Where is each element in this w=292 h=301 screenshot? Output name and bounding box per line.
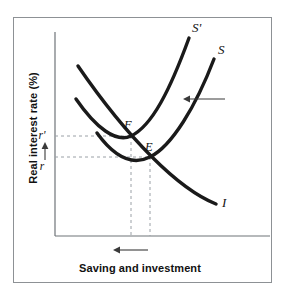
tick-label-r: r bbox=[40, 160, 45, 172]
curve-label-s: S bbox=[218, 42, 225, 57]
curve-label-s-prime: S' bbox=[192, 20, 202, 35]
rate-increase-arrow bbox=[42, 142, 49, 160]
quantity-decrease-arrow bbox=[113, 247, 148, 254]
point-label-f: F bbox=[123, 118, 132, 132]
curve-label-i: I bbox=[221, 195, 227, 210]
figure-container: Real interest rate (%) Saving and invest… bbox=[0, 0, 292, 301]
tick-label-r-prime: r' bbox=[39, 129, 46, 141]
supply-shift-arrow bbox=[183, 96, 225, 103]
plot-svg: S' S I F E r' r bbox=[0, 0, 292, 301]
point-label-e: E bbox=[144, 140, 153, 154]
